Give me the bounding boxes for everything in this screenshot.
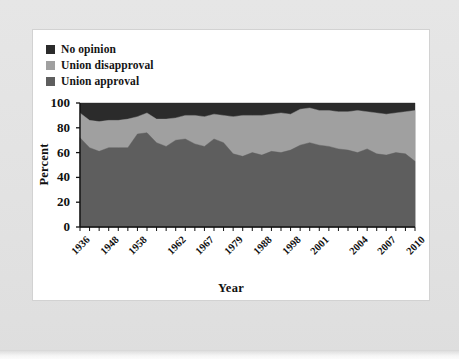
x-axis-title: Year (33, 281, 429, 296)
y-axis-title: Percent (37, 135, 52, 195)
figure-root: No opinion Union disapproval Union appro… (0, 0, 459, 359)
y-tick-label: 80 (40, 120, 70, 136)
chart-panel: No opinion Union disapproval Union appro… (33, 30, 429, 300)
page-bottom-edge (0, 350, 459, 359)
y-tick-label: 20 (40, 194, 70, 210)
y-tick-label: 100 (40, 95, 70, 111)
y-tick-label: 60 (40, 145, 70, 161)
y-tick-label: 40 (40, 169, 70, 185)
plot-area: Percent Year 020406080100193619481958196… (33, 30, 429, 300)
stacked-area-plot (33, 30, 429, 300)
y-tick-label: 0 (40, 219, 70, 235)
